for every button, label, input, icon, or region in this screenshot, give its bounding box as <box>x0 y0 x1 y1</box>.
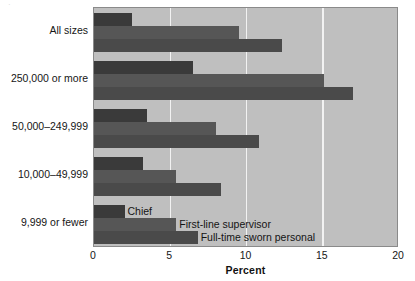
bar <box>94 39 282 52</box>
bar <box>94 74 324 87</box>
bar-group <box>94 56 397 104</box>
bar <box>94 231 198 244</box>
x-axis-tick: 15 <box>307 249 337 261</box>
bar <box>94 135 259 148</box>
bar <box>94 157 143 170</box>
bar <box>94 218 176 231</box>
x-axis-tick: 5 <box>154 249 184 261</box>
legend-label-first-line-supervisor: First-line supervisor <box>179 218 271 230</box>
x-axis-tick-labels: 05101520 <box>93 249 398 265</box>
x-axis-tick: 0 <box>78 249 108 261</box>
plot-area: ChiefFirst-line supervisorFull-time swor… <box>93 7 398 247</box>
legend-label-chief: Chief <box>128 205 153 217</box>
bar-group <box>94 152 397 200</box>
y-axis-label: All sizes <box>0 25 88 36</box>
bar <box>94 205 125 218</box>
bar <box>94 26 239 39</box>
y-axis-label: 10,000–49,999 <box>0 169 88 180</box>
y-axis-label: 9,999 or fewer <box>0 217 88 228</box>
x-axis-title: Percent <box>93 264 398 276</box>
y-axis-category-labels: All sizes250,000 or more50,000–249,99910… <box>0 7 88 247</box>
top-edge-artifact: · <box>8 0 15 5</box>
x-axis-tick: 10 <box>231 249 261 261</box>
y-axis-label: 50,000–249,999 <box>0 121 88 132</box>
bar <box>94 183 221 196</box>
bar <box>94 109 147 122</box>
bar <box>94 61 193 74</box>
legend-label-full-time-sworn-personal: Full-time sworn personal <box>201 231 315 243</box>
bar <box>94 170 176 183</box>
bar-group <box>94 104 397 152</box>
bar-chart: · All sizes250,000 or more50,000–249,999… <box>0 0 415 281</box>
bar <box>94 122 216 135</box>
bar <box>94 13 132 26</box>
bar <box>94 87 353 100</box>
x-axis-tick: 20 <box>383 249 413 261</box>
y-axis-label: 250,000 or more <box>0 73 88 84</box>
bar-group <box>94 8 397 56</box>
